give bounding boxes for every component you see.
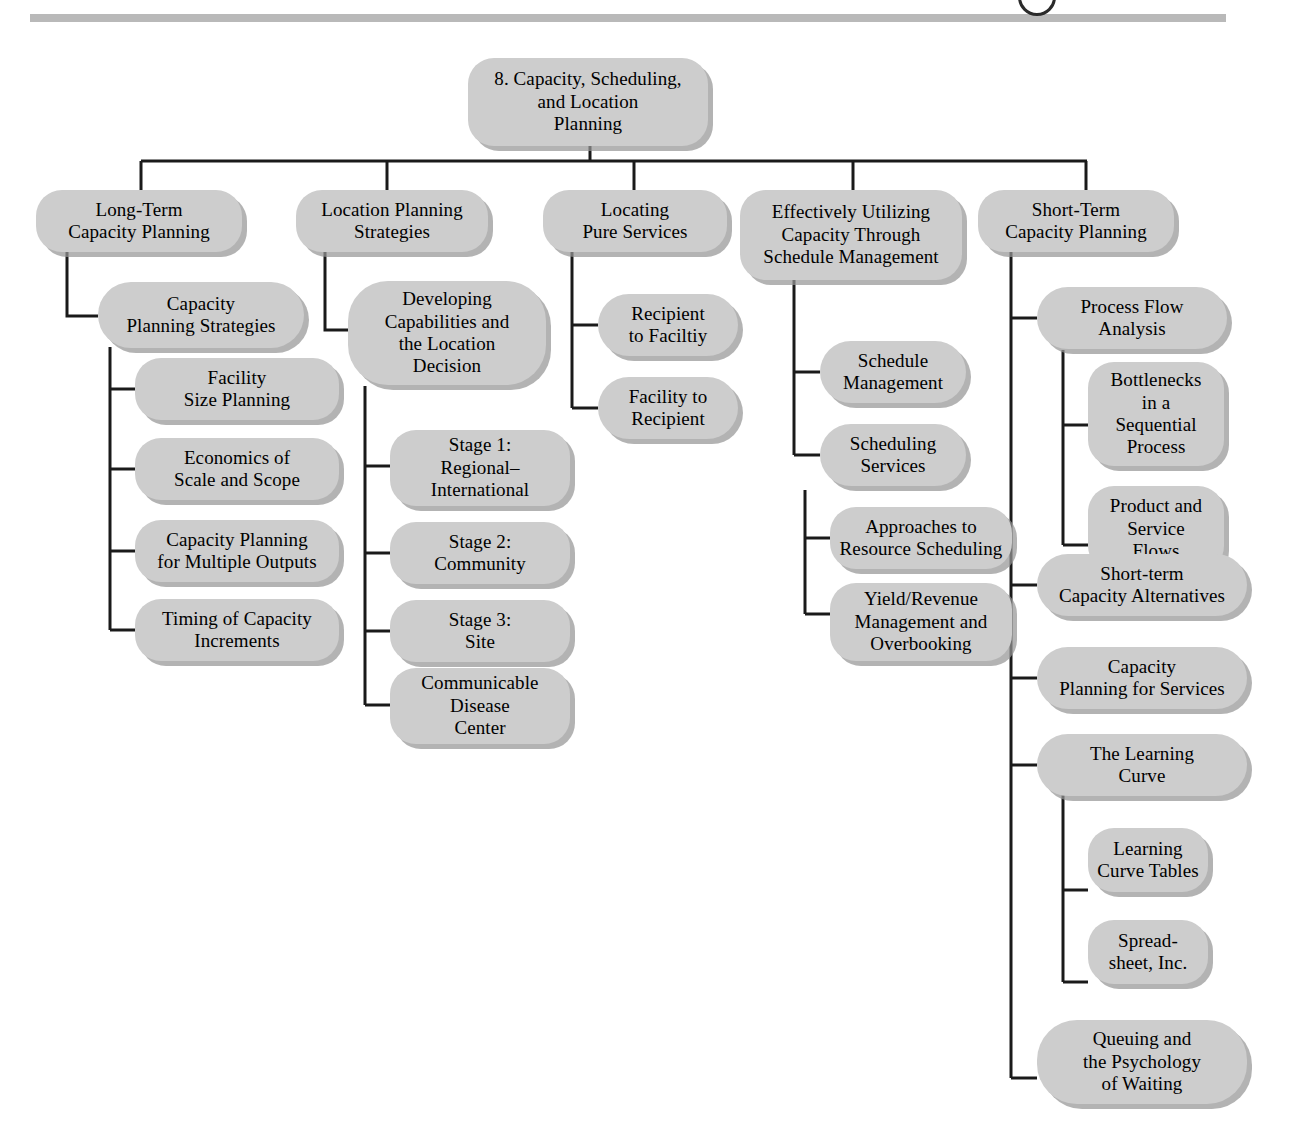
top-rule-divider (30, 14, 1226, 22)
node-capacity-planning-for-multiple-outputs-label: Capacity Planning for Multiple Outputs (143, 529, 331, 574)
node-timing-of-capacity-increments[interactable]: Timing of Capacity Increments (135, 599, 339, 661)
node-effectively-utilizing-capacity-through-schedule-management-label: Effectively Utilizing Capacity Through S… (748, 201, 954, 268)
node-economics-of-scale-and-scope[interactable]: Economics of Scale and Scope (135, 438, 339, 500)
node-capacity-planning-strategies-label: Capacity Planning Strategies (106, 293, 296, 338)
node-root-label: 8. Capacity, Scheduling, and Location Pl… (476, 68, 700, 135)
node-facility-size-planning-label: Facility Size Planning (143, 367, 331, 412)
node-recipient-to-faciltiy[interactable]: Recipient to Faciltiy (598, 294, 738, 356)
node-short-term-capacity-alternatives-label: Short-term Capacity Alternatives (1045, 563, 1239, 608)
node-stage-2-community-label: Stage 2: Community (398, 531, 562, 576)
node-location-planning-strategies-label: Location Planning Strategies (304, 199, 480, 244)
node-facility-to-recipient-label: Facility to Recipient (606, 386, 730, 431)
node-communicable-disease-center[interactable]: Communicable Disease Center (390, 668, 570, 744)
node-product-and-service-flows-label: Product and Service Flows (1096, 495, 1216, 562)
node-communicable-disease-center-label: Communicable Disease Center (398, 672, 562, 739)
node-facility-to-recipient[interactable]: Facility to Recipient (598, 377, 738, 439)
node-bottlenecks-in-a-sequential-process-label: Bottlenecks in a Sequential Process (1096, 369, 1216, 459)
node-recipient-to-faciltiy-label: Recipient to Faciltiy (606, 303, 730, 348)
node-long-term-capacity-planning-label: Long-Term Capacity Planning (44, 199, 234, 244)
node-learning-curve-tables-label: Learning Curve Tables (1096, 838, 1200, 883)
diagram-canvas: 8. Capacity, Scheduling, and Location Pl… (0, 0, 1302, 1142)
node-locating-pure-services-label: Locating Pure Services (551, 199, 719, 244)
node-developing-capabilities-and-the-location-decision-label: Developing Capabilities and the Location… (356, 288, 538, 378)
node-approaches-to-resource-scheduling[interactable]: Approaches to Resource Scheduling (830, 507, 1012, 569)
node-short-term-capacity-planning-label: Short-Term Capacity Planning (986, 199, 1166, 244)
node-capacity-planning-strategies[interactable]: Capacity Planning Strategies (98, 282, 304, 348)
node-locating-pure-services[interactable]: Locating Pure Services (543, 190, 727, 252)
node-short-term-capacity-alternatives[interactable]: Short-term Capacity Alternatives (1037, 554, 1247, 616)
node-the-learning-curve-label: The Learning Curve (1045, 743, 1239, 788)
node-schedule-management-label: Schedule Management (828, 350, 958, 395)
node-process-flow-analysis-label: Process Flow Analysis (1045, 296, 1219, 341)
node-yield-revenue-management-and-overbooking-label: Yield/Revenue Management and Overbooking (838, 588, 1004, 655)
node-queuing-and-the-psychology-of-waiting-label: Queuing and the Psychology of Waiting (1045, 1028, 1239, 1095)
node-stage-1-regional-international-label: Stage 1: Regional– International (398, 434, 562, 501)
node-timing-of-capacity-increments-label: Timing of Capacity Increments (143, 608, 331, 653)
node-facility-size-planning[interactable]: Facility Size Planning (135, 358, 339, 420)
node-scheduling-services[interactable]: Scheduling Services (820, 424, 966, 486)
node-queuing-and-the-psychology-of-waiting[interactable]: Queuing and the Psychology of Waiting (1037, 1020, 1247, 1104)
node-long-term-capacity-planning[interactable]: Long-Term Capacity Planning (36, 190, 242, 252)
node-yield-revenue-management-and-overbooking[interactable]: Yield/Revenue Management and Overbooking (830, 583, 1012, 661)
node-capacity-planning-for-services-label: Capacity Planning for Services (1045, 656, 1239, 701)
node-learning-curve-tables[interactable]: Learning Curve Tables (1088, 828, 1208, 892)
node-capacity-planning-for-services[interactable]: Capacity Planning for Services (1037, 647, 1247, 709)
node-stage-2-community[interactable]: Stage 2: Community (390, 522, 570, 584)
node-the-learning-curve[interactable]: The Learning Curve (1037, 734, 1247, 796)
node-scheduling-services-label: Scheduling Services (828, 433, 958, 478)
node-economics-of-scale-and-scope-label: Economics of Scale and Scope (143, 447, 331, 492)
node-short-term-capacity-planning[interactable]: Short-Term Capacity Planning (978, 190, 1174, 252)
node-developing-capabilities-and-the-location-decision[interactable]: Developing Capabilities and the Location… (348, 281, 546, 385)
node-capacity-planning-for-multiple-outputs[interactable]: Capacity Planning for Multiple Outputs (135, 520, 339, 582)
node-root[interactable]: 8. Capacity, Scheduling, and Location Pl… (468, 58, 708, 146)
node-stage-3-site-label: Stage 3: Site (398, 609, 562, 654)
node-schedule-management[interactable]: Schedule Management (820, 341, 966, 403)
node-approaches-to-resource-scheduling-label: Approaches to Resource Scheduling (838, 516, 1004, 561)
node-bottlenecks-in-a-sequential-process[interactable]: Bottlenecks in a Sequential Process (1088, 362, 1224, 466)
node-effectively-utilizing-capacity-through-schedule-management[interactable]: Effectively Utilizing Capacity Through S… (740, 190, 962, 280)
node-location-planning-strategies[interactable]: Location Planning Strategies (296, 190, 488, 252)
node-stage-3-site[interactable]: Stage 3: Site (390, 600, 570, 662)
node-process-flow-analysis[interactable]: Process Flow Analysis (1037, 287, 1227, 349)
node-spreadsheet-inc[interactable]: Spread- sheet, Inc. (1088, 920, 1208, 984)
node-spreadsheet-inc-label: Spread- sheet, Inc. (1096, 930, 1200, 975)
node-stage-1-regional-international[interactable]: Stage 1: Regional– International (390, 430, 570, 506)
